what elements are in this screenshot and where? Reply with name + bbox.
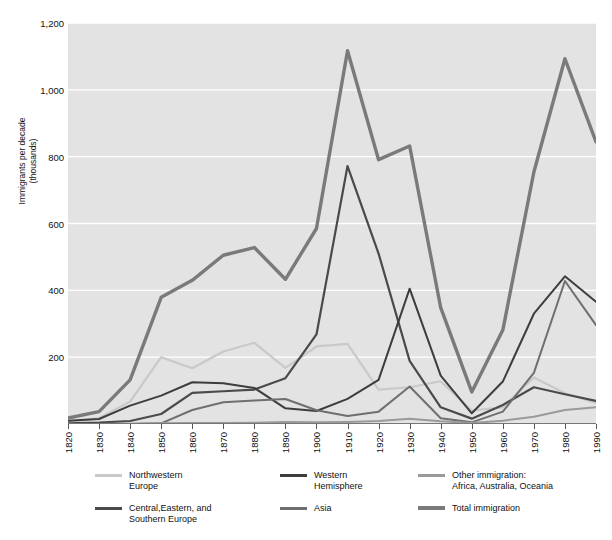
y-tick-label-1200: 1,200 [20,18,64,29]
legend-item[interactable]: Central,Eastern, and Southern Europe [95,503,212,524]
legend-label: Northwestern Europe [129,470,183,491]
legend-swatch-icon [95,507,122,510]
x-tick-mark-1840 [130,424,131,429]
x-tick-label-1900: 1900 [311,432,322,453]
y-tick-label-400: 400 [20,285,64,296]
x-tick-label-1910: 1910 [343,432,354,453]
x-tick-mark-1890 [285,424,286,429]
x-tick-label-1870: 1870 [218,432,229,453]
x-tick-mark-1910 [348,424,349,429]
y-tick-label-200: 200 [20,352,64,363]
legend-item[interactable]: Northwestern Europe [95,470,183,491]
legend-swatch-icon [418,506,445,510]
y-tick-label-600: 600 [20,218,64,229]
y-tick-label-800: 800 [20,151,64,162]
x-tick-mark-1880 [254,424,255,429]
x-tick-mark-1900 [316,424,317,429]
x-tick-mark-1930 [410,424,411,429]
y-axis-tick-labels: 2004006008001,0001,200 [16,0,64,540]
legend-swatch-icon [418,474,445,477]
x-tick-label-1990: 1990 [591,432,602,453]
y-tick-label-1000: 1,000 [20,84,64,95]
series-line-0 [68,343,596,422]
legend-swatch-icon [280,474,307,477]
x-tick-mark-1860 [192,424,193,429]
legend-swatch-icon [280,507,307,510]
x-tick-mark-1990 [596,424,597,429]
legend-label: Other immigration: Africa, Australia, Oc… [452,470,553,491]
plot-area [68,23,596,424]
x-tick-mark-1850 [161,424,162,429]
legend-label: Asia [314,503,332,514]
x-tick-mark-1940 [441,424,442,429]
chart-legend: Northwestern EuropeWestern HemisphereOth… [68,470,612,540]
x-tick-mark-1920 [379,424,380,429]
legend-item[interactable]: Asia [280,503,332,514]
x-tick-label-1840: 1840 [125,432,136,453]
x-tick-label-1890: 1890 [280,432,291,453]
x-tick-label-1950: 1950 [467,432,478,453]
x-tick-label-1920: 1920 [374,432,385,453]
x-tick-label-1830: 1830 [94,432,105,453]
immigration-line-chart: Immigrants per decade (thousands) 200400… [0,0,612,540]
x-tick-mark-1820 [68,424,69,429]
plot-svg [68,23,596,424]
series-line-4 [68,407,596,424]
x-tick-mark-1960 [503,424,504,429]
legend-label: Central,Eastern, and Southern Europe [129,503,212,524]
x-tick-label-1850: 1850 [156,432,167,453]
legend-swatch-icon [95,474,122,477]
legend-item[interactable]: Western Hemisphere [280,470,363,491]
x-tick-mark-1870 [223,424,224,429]
series-line-2 [68,276,596,420]
x-tick-mark-1980 [565,424,566,429]
x-tick-label-1980: 1980 [560,432,571,453]
legend-label: Total immigration [452,503,520,514]
x-tick-mark-1830 [99,424,100,429]
x-tick-label-1960: 1960 [498,432,509,453]
legend-item[interactable]: Total immigration [418,503,520,514]
x-tick-label-1940: 1940 [436,432,447,453]
legend-item[interactable]: Other immigration: Africa, Australia, Oc… [418,470,553,491]
series-line-5 [68,51,596,418]
legend-label: Western Hemisphere [314,470,363,491]
x-tick-label-1930: 1930 [405,432,416,453]
x-tick-label-1860: 1860 [187,432,198,453]
x-tick-mark-1970 [534,424,535,429]
x-tick-label-1880: 1880 [249,432,260,453]
x-tick-label-1820: 1820 [63,432,74,453]
x-tick-label-1970: 1970 [529,432,540,453]
series-line-1 [68,166,596,423]
x-tick-mark-1950 [472,424,473,429]
